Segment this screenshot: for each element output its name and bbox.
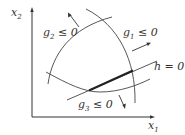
h-label: h = 0: [154, 60, 184, 73]
g3-label: g3 ≤ 0: [78, 98, 113, 113]
g1-direction-arrow: [132, 44, 148, 51]
x1-axis-label: x1: [148, 119, 159, 134]
x2-axis-arrow-icon: [30, 7, 33, 12]
feasible-segment: [89, 71, 133, 91]
x2-axis-label: x2: [11, 6, 22, 21]
constraint-diagram: x2 x1 g2 ≤ 0 g1 ≤ 0 g3 ≤ 0 h = 0: [0, 0, 185, 135]
g1-label: g1 ≤ 0: [123, 26, 158, 41]
g2-label: g2 ≤ 0: [43, 26, 78, 41]
g3-direction-arrow: [119, 95, 124, 106]
